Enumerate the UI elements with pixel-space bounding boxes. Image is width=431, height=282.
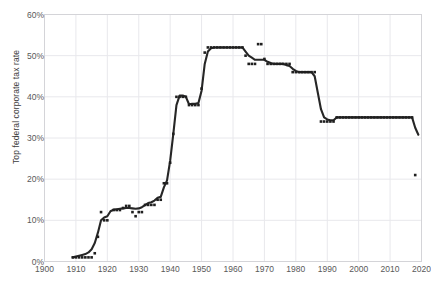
x-tick-label: 1900 — [35, 264, 54, 274]
x-tick-label: 1940 — [161, 264, 180, 274]
y-tick-label: 60% — [14, 10, 44, 20]
x-axis-tick-labels: 1900191019201930194019501960197019801990… — [0, 264, 429, 278]
x-tick-label: 1960 — [224, 264, 243, 274]
x-tick-label: 1950 — [192, 264, 211, 274]
y-axis-title: Top federal corporate tax rate — [11, 27, 21, 187]
x-tick-label: 1910 — [66, 264, 85, 274]
x-tick-label: 2000 — [349, 264, 368, 274]
y-tick-label: 10% — [14, 215, 44, 225]
x-tick-label: 1970 — [255, 264, 274, 274]
x-tick-label: 2020 — [412, 264, 431, 274]
x-tick-label: 1930 — [129, 264, 148, 274]
x-tick-label: 1990 — [318, 264, 337, 274]
x-tick-label: 1980 — [286, 264, 305, 274]
x-tick-label: 1920 — [98, 264, 117, 274]
x-tick-label: 2010 — [381, 264, 400, 274]
